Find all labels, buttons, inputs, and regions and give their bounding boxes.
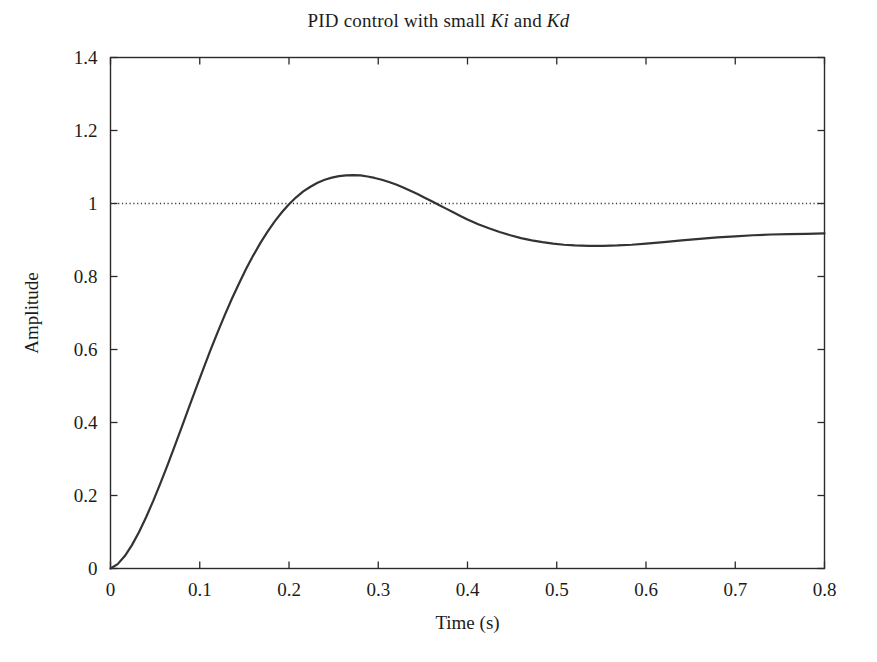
x-tick-label-1: 0.1 (188, 579, 212, 600)
y-axis-title: Amplitude (21, 272, 42, 353)
y-tick-label-1: 0.2 (74, 485, 98, 506)
y-tick-label-4: 0.8 (74, 266, 98, 287)
x-tick-label-0: 0 (106, 579, 116, 600)
x-tick-label-6: 0.6 (634, 579, 658, 600)
y-tick-label-5: 1 (88, 193, 98, 214)
x-axis-title: Time (s) (435, 612, 499, 634)
y-tick-label-3: 0.6 (74, 339, 98, 360)
figure-canvas: PID control with small Ki and Kd 00.10.2… (0, 0, 877, 662)
x-tick-label-8: 0.8 (813, 579, 837, 600)
x-tick-label-7: 0.7 (723, 579, 747, 600)
series-line-step-response (111, 175, 825, 568)
x-tick-label-2: 0.2 (277, 579, 301, 600)
y-tick-label-2: 0.4 (74, 412, 98, 433)
plot-area: 00.10.20.30.40.50.60.70.800.20.40.60.811… (0, 0, 877, 662)
x-tick-label-3: 0.3 (366, 579, 390, 600)
y-tick-label-0: 0 (88, 558, 98, 579)
y-tick-label-7: 1.4 (74, 47, 98, 68)
plot-frame (111, 58, 825, 569)
x-tick-label-5: 0.5 (545, 579, 569, 600)
y-tick-label-6: 1.2 (74, 120, 98, 141)
x-tick-label-4: 0.4 (456, 579, 480, 600)
